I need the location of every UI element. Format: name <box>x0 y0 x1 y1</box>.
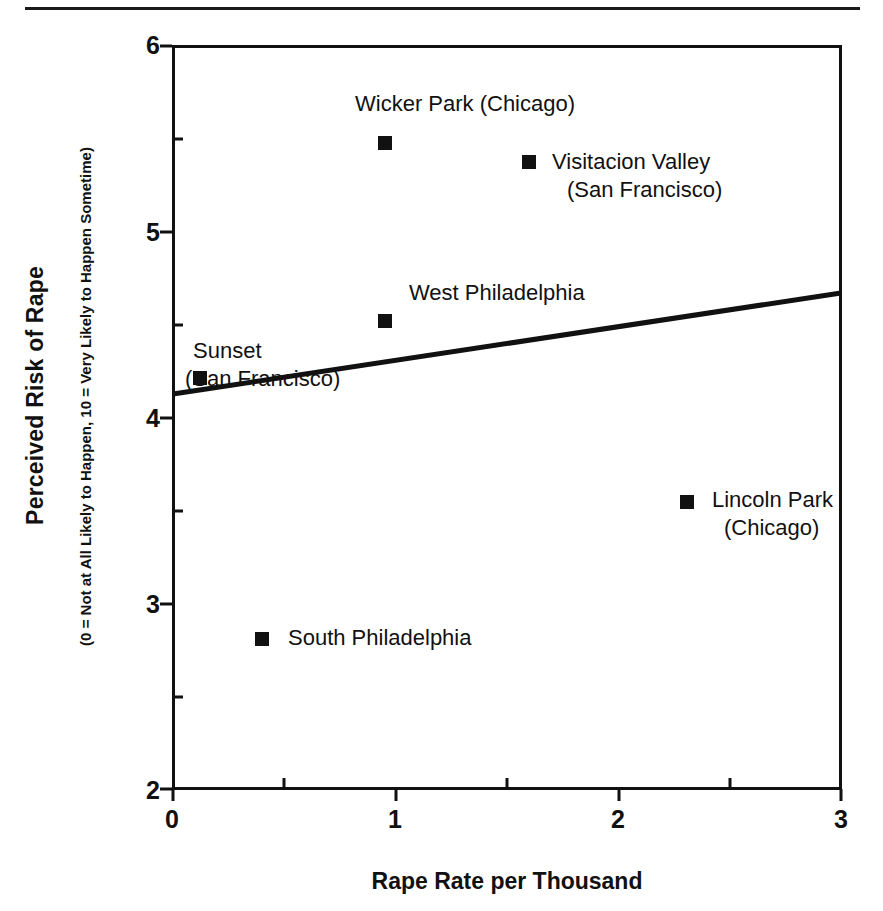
data-label-sunset-line2: (San Francisco) <box>185 365 340 393</box>
page-top-rule <box>25 7 860 10</box>
x-axis-major-ticks <box>173 789 841 801</box>
data-point-visitacion-valley[interactable] <box>522 155 536 169</box>
data-point-lincoln-park[interactable] <box>680 495 694 509</box>
x-tick-label-0: 0 <box>152 805 192 834</box>
y-axis-title-container: Perceived Risk of Rape <box>0 0 60 790</box>
y-axis-subtitle: (0 = Not at All Likely to Happen, 10 = V… <box>77 17 94 777</box>
y-axis-subtitle-container: (0 = Not at All Likely to Happen, 10 = V… <box>60 0 100 790</box>
data-label-lincoln-park-line2: (Chicago) <box>724 514 833 542</box>
data-label-visitacion-valley-line1: Visitacion Valley <box>552 149 710 174</box>
data-label-visitacion-valley: Visitacion Valley (San Francisco) <box>552 148 722 204</box>
plot-area <box>172 45 842 790</box>
x-tick-label-2: 2 <box>598 805 638 834</box>
x-axis-title: Rape Rate per Thousand <box>172 868 842 895</box>
data-point-wicker-park[interactable] <box>378 136 392 150</box>
y-tick-label-5: 5 <box>120 218 160 247</box>
data-label-sunset-line1: Sunset <box>193 338 262 363</box>
data-label-lincoln-park: Lincoln Park (Chicago) <box>712 486 833 542</box>
data-label-visitacion-valley-line2: (San Francisco) <box>567 176 722 204</box>
y-tick-label-2: 2 <box>120 776 160 805</box>
data-label-lincoln-park-line1: Lincoln Park <box>712 487 833 512</box>
data-label-west-philadelphia: West Philadelphia <box>409 279 585 307</box>
data-label-wicker-park: Wicker Park (Chicago) <box>355 90 415 118</box>
data-point-south-philadelphia[interactable] <box>255 632 269 646</box>
y-axis-major-ticks <box>160 46 172 789</box>
y-axis-title: Perceived Risk of Rape <box>22 16 49 776</box>
chart-page: Perceived Risk of Rape (0 = Not at All L… <box>0 0 883 911</box>
data-label-south-philadelphia: South Philadelphia <box>288 624 471 652</box>
y-tick-label-3: 3 <box>120 590 160 619</box>
y-tick-label-4: 4 <box>120 404 160 433</box>
x-tick-label-1: 1 <box>375 805 415 834</box>
data-label-sunset: Sunset (San Francisco) <box>193 337 340 393</box>
y-tick-label-6: 6 <box>120 31 160 60</box>
data-point-west-philadelphia[interactable] <box>378 314 392 328</box>
x-tick-label-3: 3 <box>821 805 861 834</box>
